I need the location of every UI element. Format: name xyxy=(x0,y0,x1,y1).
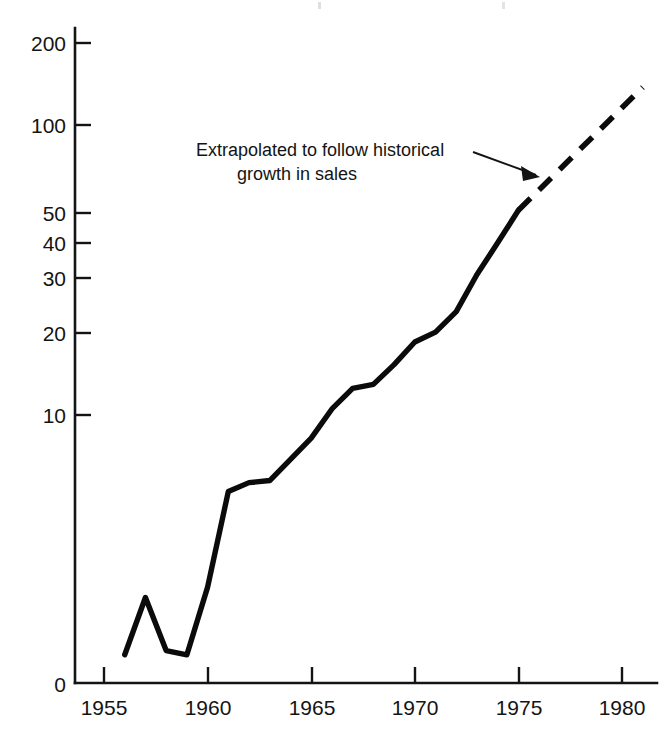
x-tick-label-1960: 1960 xyxy=(185,696,232,719)
annotation-line-2: growth in sales xyxy=(237,164,357,184)
y-axis-tick-labels: 200 100 50 40 30 20 10 0 xyxy=(31,32,66,696)
x-axis-ticks xyxy=(104,667,622,683)
x-tick-label-1980: 1980 xyxy=(599,696,646,719)
chart-figure: 200 100 50 40 30 20 10 0 1955 1960 1965 … xyxy=(0,0,665,749)
x-tick-label-1965: 1965 xyxy=(289,696,336,719)
annotation-callout: Extrapolated to follow historical growth… xyxy=(196,140,540,184)
scan-artifact-marks xyxy=(318,2,505,9)
y-tick-label-10: 10 xyxy=(43,404,66,427)
y-tick-label-30: 30 xyxy=(43,267,66,290)
y-tick-label-40: 40 xyxy=(43,232,66,255)
x-tick-label-1975: 1975 xyxy=(496,696,543,719)
y-tick-label-50: 50 xyxy=(43,202,66,225)
annotation-line-1: Extrapolated to follow historical xyxy=(196,140,444,160)
data-line-historical xyxy=(125,210,519,655)
y-tick-label-0: 0 xyxy=(54,673,66,696)
x-tick-label-1970: 1970 xyxy=(392,696,439,719)
y-tick-label-200: 200 xyxy=(31,32,66,55)
x-tick-label-1955: 1955 xyxy=(81,696,128,719)
y-tick-label-20: 20 xyxy=(43,322,66,345)
y-axis-ticks xyxy=(75,43,91,415)
data-line-extrapolated xyxy=(518,87,642,210)
x-axis-tick-labels: 1955 1960 1965 1970 1975 1980 xyxy=(81,696,646,719)
arrow-right-icon xyxy=(521,166,540,181)
y-tick-label-100: 100 xyxy=(31,114,66,137)
line-chart-plot: 200 100 50 40 30 20 10 0 1955 1960 1965 … xyxy=(0,0,665,749)
